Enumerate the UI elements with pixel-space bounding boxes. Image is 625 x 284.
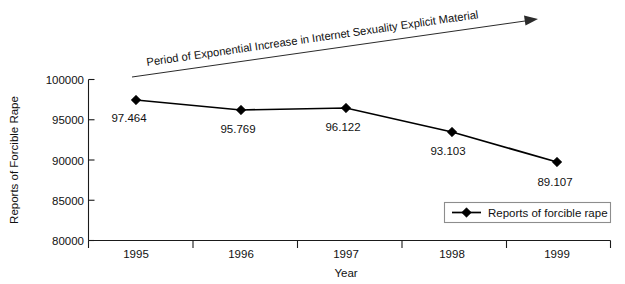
y-tick-label-2: 90000 (52, 155, 84, 167)
x-tick-label-1999: 1999 (544, 248, 570, 260)
x-tick-label-1997: 1997 (333, 248, 359, 260)
line-chart-figure: 100000 95000 90000 85000 80000 1995 1996… (0, 0, 625, 284)
annotation-arrowhead-icon (524, 16, 538, 26)
y-axis-title: Reports of Forcible Rape (8, 96, 20, 224)
data-point-1996 (236, 105, 246, 115)
data-point-1997 (341, 103, 351, 113)
x-axis-title: Year (334, 267, 357, 279)
data-label-1995: 97.464 (111, 112, 147, 124)
x-tick-label-1998: 1998 (439, 248, 465, 260)
data-label-1996: 95.769 (220, 123, 255, 135)
y-tick-label-3: 85000 (52, 195, 84, 207)
legend-entry-label: Reports of forcible rape (488, 207, 608, 219)
data-label-1997: 96.122 (325, 121, 360, 133)
legend: Reports of forcible rape (445, 203, 611, 223)
data-label-1998: 93.103 (430, 145, 465, 157)
y-tick-label-1: 95000 (52, 114, 84, 126)
y-tick-marks (89, 80, 95, 241)
data-point-1999 (552, 157, 562, 167)
x-tick-label-1996: 1996 (228, 248, 254, 260)
data-label-1999: 89.107 (537, 176, 572, 188)
data-point-labels: 97.464 95.769 96.122 93.103 89.107 (111, 112, 572, 188)
x-tick-marks (89, 241, 611, 249)
x-tick-label-1995: 1995 (123, 248, 149, 260)
x-tick-labels: 1995 1996 1997 1998 1999 (123, 248, 570, 260)
y-tick-labels: 100000 95000 90000 85000 80000 (46, 74, 84, 247)
data-point-1995 (131, 95, 141, 105)
annotation-group: Period of Exponential Increase in Intern… (132, 8, 538, 77)
chart-canvas: 100000 95000 90000 85000 80000 1995 1996… (0, 0, 625, 284)
annotation-text: Period of Exponential Increase in Intern… (146, 8, 479, 68)
y-tick-label-0: 100000 (46, 74, 84, 86)
data-point-1998 (447, 127, 457, 137)
y-tick-label-4: 80000 (52, 235, 84, 247)
